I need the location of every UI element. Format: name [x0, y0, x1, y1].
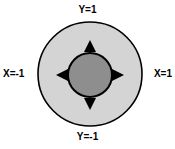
- label-y-negative: Y=-1: [0, 131, 175, 142]
- label-x-positive: X=1: [140, 68, 172, 79]
- concentric-circles-diagram: Y=1 Y=-1 X=-1 X=1: [0, 0, 175, 149]
- label-x-negative: X=-1: [3, 68, 37, 79]
- label-y-positive: Y=1: [0, 4, 175, 15]
- inner-circle: [68, 53, 112, 97]
